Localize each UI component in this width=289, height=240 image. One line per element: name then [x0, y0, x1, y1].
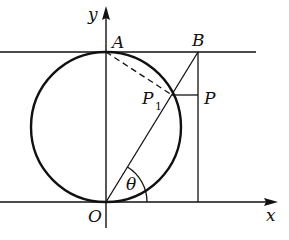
geometry-figure: y x A B P 1 P O θ: [0, 0, 289, 240]
label-y: y: [87, 4, 98, 24]
label-p1: P: [141, 88, 154, 108]
segment-ob: [106, 52, 198, 202]
label-a: A: [110, 32, 124, 52]
label-theta: θ: [126, 174, 136, 194]
label-o: O: [88, 206, 102, 226]
label-b: B: [191, 30, 205, 50]
diagram-canvas: y x A B P 1 P O θ: [0, 0, 289, 240]
label-p: P: [203, 88, 216, 108]
y-axis-arrow-icon: [102, 6, 110, 20]
label-p1-subscript: 1: [155, 100, 162, 113]
label-x: x: [266, 205, 276, 225]
